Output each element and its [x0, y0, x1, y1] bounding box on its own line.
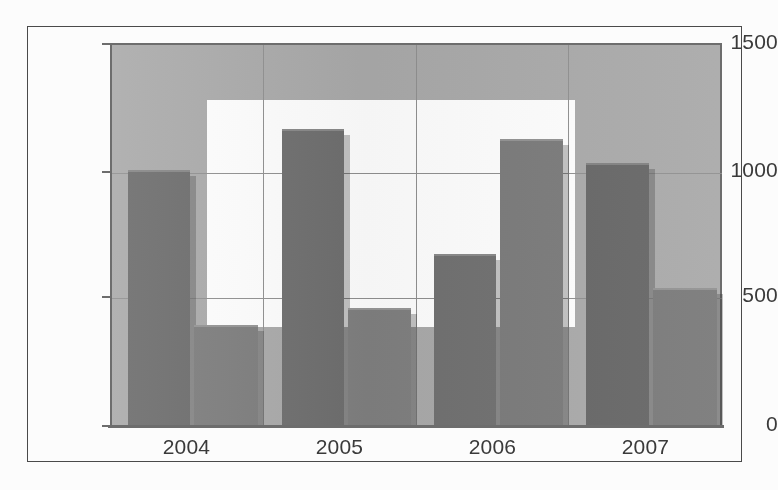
- chart-screenshot: 1500 1000 500 0: [0, 0, 778, 490]
- x-axis-labels: 2004 2005 2006 2007: [0, 0, 778, 490]
- x-tick-label-2006: 2006: [416, 435, 569, 459]
- x-tick-label-2005: 2005: [263, 435, 416, 459]
- x-tick-label-2004: 2004: [110, 435, 263, 459]
- x-tick-label-2007: 2007: [569, 435, 722, 459]
